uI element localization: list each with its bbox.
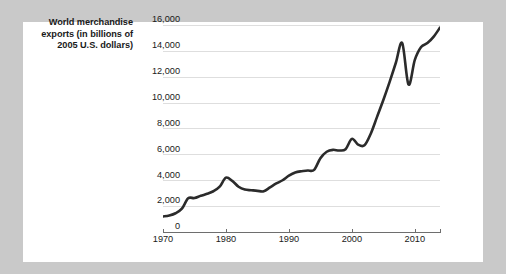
y-axis-title-line-1: World merchandise: [5, 17, 133, 29]
line-series-layer: [163, 25, 440, 232]
x-axis-cap: [440, 229, 441, 233]
x-axis-cap: [163, 229, 164, 233]
x-axis: 19701980199020002010: [163, 229, 440, 257]
y-axis-title-line-2: exports (in billions of: [5, 29, 133, 41]
x-tick-mark: [289, 229, 290, 233]
plot-area: 02,0004,0006,0008,00010,00012,00014,0001…: [140, 25, 440, 232]
figure-root: World merchandise exports (in billions o…: [0, 0, 506, 274]
y-tick-label: 16,000: [134, 14, 180, 24]
x-tick-label: 1970: [143, 234, 183, 244]
y-axis-title: World merchandise exports (in billions o…: [5, 17, 133, 52]
x-tick-mark: [226, 229, 227, 233]
line-series-path: [163, 28, 440, 217]
x-tick-label: 2000: [332, 234, 372, 244]
x-tick-label: 2010: [395, 234, 435, 244]
x-tick-mark: [352, 229, 353, 233]
x-tick-label: 1990: [269, 234, 309, 244]
x-tick-label: 1980: [206, 234, 246, 244]
y-axis-title-line-3: 2005 U.S. dollars): [5, 40, 133, 52]
x-tick-mark: [415, 229, 416, 233]
